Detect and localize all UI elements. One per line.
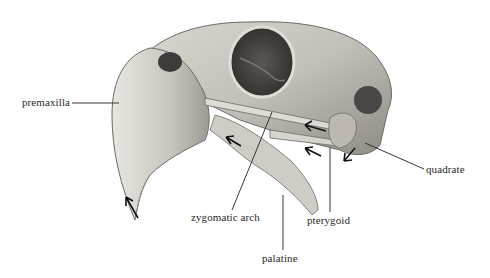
label-quadrate: quadrate (426, 163, 465, 175)
ear-opening (354, 86, 382, 114)
label-palatine: palatine (262, 252, 298, 264)
label-zygomatic-arch: zygomatic arch (191, 211, 260, 223)
label-premaxilla: premaxilla (22, 96, 70, 108)
skull-illustration (0, 0, 490, 278)
orbit (230, 27, 294, 97)
arrow-icon (305, 147, 321, 156)
skull-diagram: premaxilla zygomatic arch palatine ptery… (0, 0, 490, 278)
nostril (158, 52, 182, 72)
quadrate-leader (365, 143, 424, 169)
label-pterygoid: pterygoid (307, 214, 350, 226)
